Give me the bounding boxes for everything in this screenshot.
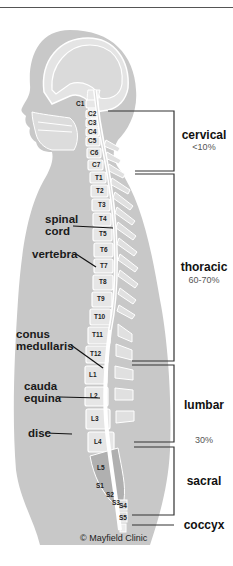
svg-text:T6: T6 [100, 246, 108, 253]
region-thoracic: thoracic [176, 260, 232, 274]
label-cauda-line2: equina [24, 392, 61, 404]
svg-text:L1: L1 [89, 371, 97, 378]
copyright-credit: © Mayfield Clinic [80, 533, 147, 543]
svg-text:T9: T9 [97, 295, 105, 302]
percent-cervical: <10% [176, 142, 232, 152]
svg-text:T12: T12 [90, 350, 102, 357]
label-spinal-cord-line2: cord [45, 225, 78, 237]
svg-text:L4: L4 [94, 438, 102, 445]
svg-text:L3: L3 [91, 415, 99, 422]
percent-thoracic: 60-70% [176, 275, 232, 285]
label-conus-medullaris: conus medullaris [16, 328, 74, 352]
svg-text:T1: T1 [95, 174, 103, 181]
svg-text:C3: C3 [88, 119, 97, 126]
label-cauda-line1: cauda [24, 380, 61, 392]
svg-text:S5: S5 [119, 514, 127, 521]
svg-text:T4: T4 [99, 215, 107, 222]
region-coccyx: coccyx [176, 518, 232, 532]
region-sacral: sacral [176, 474, 232, 488]
label-cauda-equina: cauda equina [24, 380, 61, 404]
svg-text:S1: S1 [96, 482, 104, 489]
label-spinal-cord: spinal cord [45, 213, 78, 237]
svg-text:T5: T5 [99, 230, 107, 237]
label-spinal-cord-line1: spinal [45, 213, 78, 225]
svg-text:C2: C2 [88, 110, 97, 117]
svg-text:S4: S4 [119, 502, 127, 509]
label-conus-line2: medullaris [16, 340, 74, 352]
region-lumbar: lumbar [176, 398, 232, 412]
svg-text:C1: C1 [76, 100, 85, 107]
region-cervical: cervical [176, 128, 232, 142]
svg-text:C4: C4 [88, 128, 97, 135]
label-disc: disc [28, 427, 51, 439]
percent-lumbar: 30% [176, 435, 232, 445]
svg-text:T10: T10 [94, 313, 106, 320]
svg-text:T7: T7 [100, 262, 108, 269]
svg-text:C6: C6 [90, 149, 99, 156]
svg-text:C5: C5 [88, 137, 97, 144]
svg-text:S2: S2 [106, 491, 114, 498]
svg-text:C7: C7 [92, 161, 101, 168]
label-vertebra: vertebra [32, 248, 77, 260]
svg-text:L5: L5 [97, 464, 105, 471]
label-conus-line1: conus [16, 328, 74, 340]
svg-text:T2: T2 [96, 187, 104, 194]
svg-text:T8: T8 [99, 278, 107, 285]
svg-text:T11: T11 [92, 331, 103, 338]
svg-text:T3: T3 [98, 201, 106, 208]
